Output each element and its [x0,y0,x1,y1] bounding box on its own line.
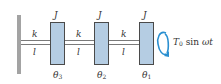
shaft-1-length-label: l [33,48,36,57]
shaft-2-stiffness-label: k [76,30,81,39]
disk-theta2-angle-label: θ2 [97,71,106,80]
disk-theta1-inertia-label: J [143,11,147,20]
shaft-3 [109,40,139,45]
shaft-2-length-label: l [77,48,80,57]
disk-theta3-angle-label: θ3 [53,71,62,80]
shaft-2 [65,40,94,45]
disk-theta1 [139,22,154,65]
shaft-1 [21,40,50,45]
shaft-3-length-label: l [122,48,125,57]
disk-theta1-angle-label: θ1 [142,71,151,80]
disk-theta2 [94,22,109,65]
torsional-system-diagram: k l k l k l J J J θ3 θ2 θ1 T0 sin ωt [0,0,221,84]
circular-arrow-icon [155,29,173,59]
shaft-1-stiffness-label: k [32,30,37,39]
disk-theta3 [50,22,65,65]
applied-torque-label: T0 sin ωt [173,38,213,47]
disk-theta3-inertia-label: J [54,11,58,20]
disk-theta2-inertia-label: J [98,11,102,20]
shaft-3-stiffness-label: k [121,30,126,39]
